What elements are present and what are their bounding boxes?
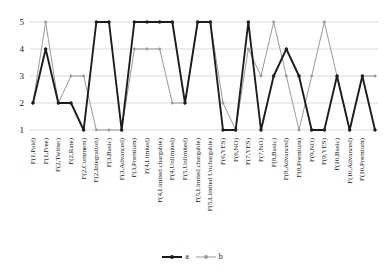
x-axis-tick-label: F(5,Limited chargable)	[195, 138, 202, 203]
x-axis-tick: F(3,Advanced)	[119, 138, 126, 180]
data-point	[310, 75, 313, 78]
x-axis-tick-label: F(10,Basic)	[334, 138, 341, 171]
data-point	[310, 128, 313, 131]
legend-swatch-icon	[196, 253, 216, 261]
x-axis-tick: F(4,Limited chargable)	[157, 138, 164, 203]
data-point	[69, 101, 72, 104]
data-point	[171, 20, 174, 23]
x-axis-tick-label: F(7,YES)	[245, 138, 252, 165]
data-point	[374, 75, 377, 78]
data-point	[171, 102, 174, 105]
legend-entry-a[interactable]: a	[162, 252, 189, 261]
x-axis-tick: F(5,Unlimited)	[182, 138, 189, 180]
x-axis-tick: F(10,Premium)	[359, 138, 366, 181]
data-point	[120, 128, 123, 131]
x-axis-tick-label: F(3,Basic)	[106, 138, 113, 167]
y-axis-tick-label: 1	[20, 126, 25, 135]
data-point	[70, 75, 73, 78]
x-axis-tick: F(2,Integration)	[93, 138, 100, 183]
data-point	[298, 129, 301, 132]
data-point	[107, 20, 110, 23]
data-point	[272, 21, 275, 24]
data-point	[221, 128, 224, 131]
x-axis-tick: F(8,Premium)	[296, 138, 303, 177]
data-point	[323, 128, 326, 131]
x-axis-tick-label: F(8,Premium)	[296, 138, 303, 177]
x-axis-tick-label: F(8,Basic)	[271, 138, 278, 167]
x-axis-tick: F(3,Premium)	[131, 138, 138, 177]
y-axis: 54321	[0, 18, 28, 134]
x-axis-tick-label: F(6,NO)	[233, 138, 240, 162]
x-axis-tick: F(2,Twitter)	[55, 138, 62, 172]
y-axis-tick-label: 2	[20, 99, 25, 108]
data-point	[285, 47, 288, 50]
x-axis-tick-label: F(7,NO)	[258, 138, 265, 162]
x-axis-tick-label: F(2,Comment)	[81, 138, 88, 179]
x-axis-tick: F(1,Free)	[43, 138, 50, 164]
data-point	[272, 74, 275, 77]
chart-legend: ab	[0, 252, 385, 261]
x-axis-tick: F(3,Basic)	[106, 138, 113, 167]
x-axis-tick-label: F(8,Advanced)	[283, 138, 290, 180]
x-axis-tick-label: F(6,YES)	[220, 138, 227, 165]
data-point	[57, 101, 60, 104]
data-point	[95, 20, 98, 23]
data-point	[335, 74, 338, 77]
data-point	[158, 20, 161, 23]
x-axis-tick: F(8,Advanced)	[283, 138, 290, 180]
data-point	[234, 128, 237, 131]
x-axis-tick: F(10,Advanced)	[347, 138, 354, 184]
data-point	[323, 21, 326, 24]
x-axis-tick-label: F(10,Advanced)	[347, 138, 354, 184]
data-point	[209, 20, 212, 23]
legend-label: b	[219, 252, 223, 261]
y-axis-tick-label: 3	[20, 72, 25, 81]
y-axis-tick-label: 5	[20, 18, 25, 27]
data-point	[31, 101, 34, 104]
x-axis-tick: F(2,Rate)	[68, 138, 75, 165]
x-axis-tick: F(5,Limited chargable)	[195, 138, 202, 203]
data-point	[133, 20, 136, 23]
data-point	[285, 75, 288, 78]
x-axis-tick: F(2,Comment)	[81, 138, 88, 179]
data-point	[108, 129, 111, 132]
data-point	[373, 128, 376, 131]
x-axis-tick: F(7,YES)	[245, 138, 252, 165]
data-point	[259, 128, 262, 131]
legend-swatch-icon	[162, 253, 182, 261]
x-axis-tick-label: F(3,Premium)	[131, 138, 138, 177]
x-axis: F(1,Paid)F(1,Free)F(2,Twitter)F(2,Rate)F…	[30, 138, 378, 246]
data-point	[183, 101, 186, 104]
x-axis-tick: F(6,YES)	[220, 138, 227, 165]
line-chart: 54321 F(1,Paid)F(1,Free)F(2,Twitter)F(2,…	[0, 0, 385, 276]
x-axis-tick: F(9,YES)	[321, 138, 328, 165]
x-axis-tick: F(6,NO)	[233, 138, 240, 162]
x-axis-tick: F(8,Basic)	[271, 138, 278, 167]
data-point	[145, 20, 148, 23]
legend-label: a	[185, 252, 189, 261]
data-point	[247, 48, 250, 51]
x-axis-tick-label: F(4,Limited)	[144, 138, 151, 174]
x-axis-tick: F(1,Paid)	[30, 138, 37, 164]
data-point	[82, 75, 85, 78]
data-point	[95, 129, 98, 132]
data-point	[348, 128, 351, 131]
data-point	[361, 74, 364, 77]
y-axis-tick-label: 4	[20, 45, 25, 54]
x-axis-tick-label: F(1,Paid)	[30, 138, 37, 164]
x-axis-tick: F(4,Unlimited)	[169, 138, 176, 180]
x-axis-tick: F(4,Limited)	[144, 138, 151, 174]
x-axis-tick-label: F(3,Advanced)	[119, 138, 126, 180]
x-axis-tick: F(7,NO)	[258, 138, 265, 162]
x-axis-tick-label: F(9,YES)	[321, 138, 328, 165]
x-axis-tick-label: F(1,Free)	[43, 138, 50, 164]
x-axis-tick: F(10,Basic)	[334, 138, 341, 171]
x-axis-tick-label: F(4,Unlimited)	[169, 138, 176, 180]
x-axis-tick-label: F(2,Twitter)	[55, 138, 62, 172]
x-axis-tick-label: F(2,Integration)	[93, 138, 100, 183]
data-point	[260, 75, 263, 78]
data-point	[158, 48, 161, 51]
x-axis-tick-label: F(5,Limited Unchargable)	[207, 138, 214, 211]
x-axis-tick-label: F(4,Limited chargable)	[157, 138, 164, 203]
legend-entry-b[interactable]: b	[196, 252, 223, 261]
